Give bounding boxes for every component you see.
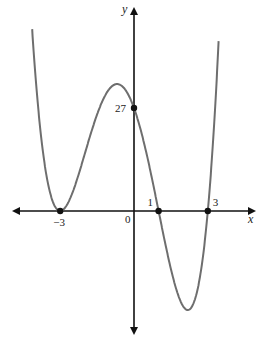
plot-area: −31327 y x 0 <box>0 0 264 351</box>
point-marker <box>131 105 137 111</box>
y-axis-label: y <box>121 2 128 16</box>
point-label: −3 <box>53 216 65 228</box>
point-marker <box>57 208 63 214</box>
marked-points: −31327 <box>53 102 219 228</box>
graph: −31327 y x 0 <box>0 0 264 351</box>
point-marker <box>155 208 161 214</box>
point-label: 27 <box>115 102 127 114</box>
function-curve <box>32 29 218 310</box>
x-axis-label: x <box>247 212 254 226</box>
point-marker <box>205 208 211 214</box>
origin-label: 0 <box>125 213 131 225</box>
point-label: 3 <box>213 196 219 208</box>
point-label: 1 <box>148 196 154 208</box>
